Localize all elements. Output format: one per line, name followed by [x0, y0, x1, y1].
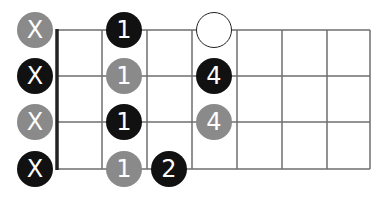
finger-dot: 2 [151, 151, 187, 187]
finger-dot: 1 [106, 12, 142, 48]
finger-dot: 4 [196, 104, 232, 140]
finger-number: 2 [161, 157, 176, 181]
muted-string-marker: X [17, 12, 53, 48]
open-note-circle [196, 12, 232, 48]
muted-string-marker: X [17, 104, 53, 140]
finger-number: 1 [116, 110, 131, 134]
finger-number: 1 [116, 18, 131, 42]
finger-dot: 1 [106, 151, 142, 187]
marker-label: X [27, 18, 43, 42]
marker-label: X [27, 64, 43, 88]
finger-number: 1 [116, 64, 131, 88]
fretboard-grid [0, 0, 384, 199]
marker-label: X [27, 110, 43, 134]
muted-string-marker: X [17, 58, 53, 94]
finger-dot: 1 [106, 58, 142, 94]
finger-dot: 1 [106, 104, 142, 140]
muted-string-marker: X [17, 151, 53, 187]
finger-number: 4 [206, 64, 221, 88]
marker-label: X [27, 157, 43, 181]
chord-diagram: X X X X 1 1 1 1 2 4 4 [0, 0, 384, 199]
finger-number: 1 [116, 157, 131, 181]
finger-number: 4 [206, 110, 221, 134]
finger-dot: 4 [196, 58, 232, 94]
